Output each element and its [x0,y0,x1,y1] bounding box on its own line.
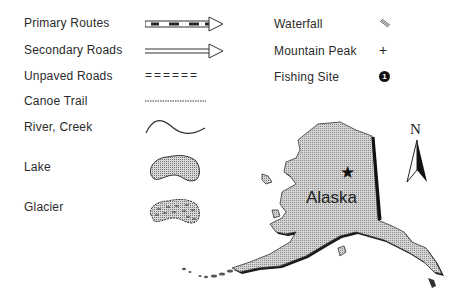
star-icon: ★ [340,162,355,183]
alaska-label: Alaska [306,188,357,208]
legend-label-river-creek: River, Creek [24,120,92,134]
legend-label-unpaved-roads: Unpaved Roads [24,69,113,83]
legend-label-mountain-peak: Mountain Peak [274,44,357,58]
waterfall-icon [379,19,391,29]
unpaved-road-symbol: ====== [145,68,199,82]
mountain-peak-icon: + [379,42,387,58]
legend-label-glacier: Glacier [24,200,63,214]
north-arrow-icon [405,140,429,184]
legend-label-secondary-roads: Secondary Roads [24,43,122,57]
legend-label-waterfall: Waterfall [274,17,323,31]
legend-label-lake: Lake [24,160,51,174]
fishing-site-icon: 1 [379,71,390,82]
primary-route-symbol [145,16,225,32]
north-label: N [410,121,421,138]
canoe-trail-symbol [145,98,207,104]
legend-label-fishing-site: Fishing Site [274,70,339,84]
legend-label-canoe-trail: Canoe Trail [24,94,88,108]
legend-label-primary-routes: Primary Routes [24,16,110,30]
secondary-road-symbol [145,43,225,59]
